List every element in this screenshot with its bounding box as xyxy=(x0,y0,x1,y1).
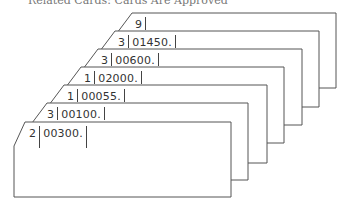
field-divider xyxy=(57,107,58,120)
card-7-label: 200300. xyxy=(29,126,90,148)
card-1-label: 9 xyxy=(135,17,149,31)
field-divider xyxy=(77,89,78,102)
field-divider xyxy=(128,35,129,48)
card-5-field1: 1 xyxy=(67,90,74,103)
field-divider xyxy=(141,71,142,84)
card-4-field1: 1 xyxy=(84,72,91,85)
card-6-label: 300100. xyxy=(47,107,108,121)
card-5-field2: 00055. xyxy=(81,90,121,103)
field-divider xyxy=(104,107,105,120)
field-divider xyxy=(111,53,112,66)
field-divider xyxy=(39,126,40,148)
field-divider xyxy=(94,71,95,84)
card-3-field1: 3 xyxy=(101,54,108,67)
field-divider xyxy=(86,126,87,148)
card-4-label: 102000. xyxy=(84,71,145,85)
card-3-field2: 00600. xyxy=(115,54,155,67)
card-2-label: 301450. xyxy=(118,35,179,49)
card-6-field1: 3 xyxy=(47,108,54,121)
card-5-label: 100055. xyxy=(67,89,128,103)
field-divider xyxy=(158,53,159,66)
card-3-label: 300600. xyxy=(101,53,162,67)
field-divider xyxy=(145,17,146,30)
card-2-field1: 3 xyxy=(118,36,125,49)
card-stack-diagram xyxy=(0,0,347,209)
field-divider xyxy=(124,89,125,102)
card-6-field2: 00100. xyxy=(61,108,101,121)
card-2-field2: 01450. xyxy=(132,36,172,49)
card-4-field2: 02000. xyxy=(98,72,138,85)
card-7-field1: 2 xyxy=(29,127,36,140)
card-7-field2: 00300. xyxy=(43,127,83,140)
card-1-field1: 9 xyxy=(135,18,142,31)
field-divider xyxy=(175,35,176,48)
